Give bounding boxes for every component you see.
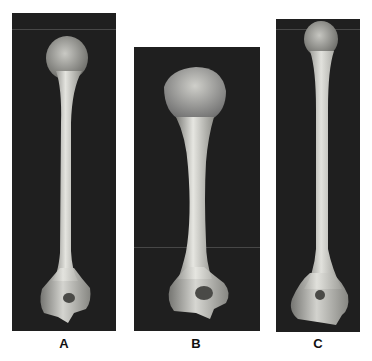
olecranon-fossa [195, 286, 213, 300]
panel-label-c: C [308, 336, 328, 351]
humeral-shaft [304, 51, 342, 289]
bone-photo-panel-c [276, 19, 360, 332]
humerus-bone-a [12, 13, 116, 331]
humerus-bone-c [276, 19, 360, 332]
panel-label-b: B [186, 336, 206, 351]
olecranon-fossa [315, 290, 325, 300]
olecranon-fossa [63, 293, 75, 303]
bone-photo-panel-a [12, 13, 116, 331]
bone-photo-panel-b [134, 47, 260, 331]
humeral-shaft [176, 117, 214, 279]
humerus-bone-b [134, 47, 260, 331]
panel-label-a: A [54, 336, 74, 351]
humeral-head [164, 67, 226, 121]
humeral-shaft [52, 71, 82, 281]
